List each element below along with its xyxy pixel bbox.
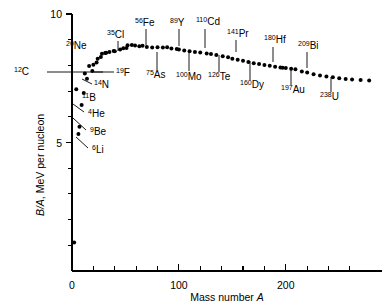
nuclide-symbol: Te [220, 71, 231, 82]
nuclide-mass-number: 238 [320, 91, 332, 98]
axis-tick-labels: 5100100200 [50, 8, 294, 291]
data-point [344, 77, 348, 81]
nuclide-symbol: B [89, 92, 96, 103]
data-point [161, 45, 165, 49]
data-point [165, 45, 169, 49]
leader-line [76, 137, 88, 148]
data-point [262, 63, 266, 67]
nuclide-label: 19F [116, 67, 130, 79]
nuclide-symbol: F [124, 67, 130, 78]
nuclide-mass-number: 20 [66, 40, 74, 47]
data-point [284, 66, 288, 70]
x-tick-label: 200 [277, 279, 295, 291]
nuclide-label: 12C [14, 66, 29, 78]
nuclide-mass-number: 11 [82, 92, 89, 99]
nuclide-symbol: Dy [252, 79, 264, 90]
nuclide-symbol: Cl [115, 29, 124, 40]
nuclide-label: 238U [320, 91, 339, 103]
nuclide-label: 126Te [208, 71, 231, 83]
nuclide-label: 14N [94, 79, 109, 91]
data-point [193, 50, 197, 54]
data-point [367, 79, 371, 83]
nuclide-label: 209Bi [298, 40, 319, 52]
nuclide-mass-number: 75 [146, 69, 154, 76]
data-point [230, 57, 234, 61]
nuclide-symbol: N [102, 79, 109, 90]
nuclide-label: 197Au [281, 84, 305, 96]
y-axis-ticks [66, 14, 72, 245]
data-point [90, 69, 94, 73]
nuclide-mass-number: 14 [94, 79, 102, 86]
nuclide-mass-number: 209 [298, 40, 310, 47]
data-point [198, 51, 202, 55]
data-point [141, 44, 145, 48]
x-axis-title: Mass number A [190, 291, 264, 303]
nuclide-symbol: Bi [310, 40, 319, 51]
nuclide-mass-number: 89 [170, 17, 178, 24]
x-tick-label: 100 [170, 279, 188, 291]
data-point [188, 49, 192, 53]
data-point [72, 240, 76, 244]
data-point [76, 132, 80, 136]
data-point [126, 43, 130, 47]
nuclide-mass-number: 35 [107, 29, 115, 36]
nuclide-symbol: Cd [207, 16, 220, 27]
nuclide-annotations: 12C6Li9Be4He11B14N20Ne19F35Cl56Fe75As89Y… [14, 16, 339, 156]
x-axis-ticks [72, 264, 350, 271]
nuclide-label: 11B [82, 92, 96, 104]
nuclide-symbol: Hf [276, 34, 286, 45]
data-point [226, 55, 230, 59]
nuclide-mass-number: 160 [240, 79, 252, 86]
x-tick-label: 0 [69, 279, 75, 291]
nuclide-label: 89Y [170, 17, 185, 29]
data-point [209, 52, 213, 56]
data-point [268, 64, 272, 68]
data-point [305, 71, 309, 75]
data-point [293, 67, 297, 71]
data-point [273, 65, 277, 69]
nuclide-mass-number: 19 [116, 67, 124, 74]
nuclide-symbol: As [154, 69, 166, 80]
data-point [169, 46, 173, 50]
nuclide-mass-number: 56 [135, 17, 143, 24]
nuclide-mass-number: 126 [208, 71, 220, 78]
data-point [359, 78, 363, 82]
data-point [350, 78, 354, 82]
nuclide-label: 75As [146, 69, 165, 81]
data-point [156, 45, 160, 49]
nuclide-symbol: Ne [74, 40, 87, 51]
data-point [74, 87, 78, 91]
data-point [257, 62, 261, 66]
data-point [85, 77, 89, 81]
nuclide-symbol: Mo [188, 71, 202, 82]
nuclide-symbol: Fe [143, 17, 155, 28]
nuclide-label: 9Be [90, 126, 107, 138]
data-point [324, 74, 328, 78]
chart-canvas: 5100100200 12C6Li9Be4He11B14N20Ne19F35Cl… [0, 0, 391, 308]
nuclide-label: 35Cl [107, 29, 124, 41]
nuclide-mass-number: 110 [196, 16, 207, 23]
data-point [236, 58, 240, 62]
data-point [205, 52, 209, 56]
nuclide-symbol: He [92, 108, 105, 119]
nuclide-symbol: Li [96, 144, 104, 155]
nuclide-label: 6Li [92, 144, 104, 156]
data-point [145, 45, 149, 49]
data-point [300, 70, 304, 74]
data-point [113, 49, 117, 53]
nuclide-symbol: Y [178, 17, 185, 28]
y-tick-label: 10 [50, 8, 62, 20]
data-point [241, 59, 245, 63]
nuclide-symbol: Au [293, 84, 305, 95]
nuclide-label: 110Cd [196, 16, 220, 28]
y-tick-label: 5 [56, 137, 62, 149]
data-point [182, 48, 186, 52]
data-point [80, 103, 84, 107]
data-point [337, 76, 341, 80]
nuclide-symbol: C [22, 66, 29, 77]
data-point [221, 54, 225, 58]
data-point [150, 45, 154, 49]
data-point [177, 47, 181, 51]
nuclide-label: 20Ne [66, 40, 87, 52]
nuclide-mass-number: 141 [227, 28, 239, 35]
